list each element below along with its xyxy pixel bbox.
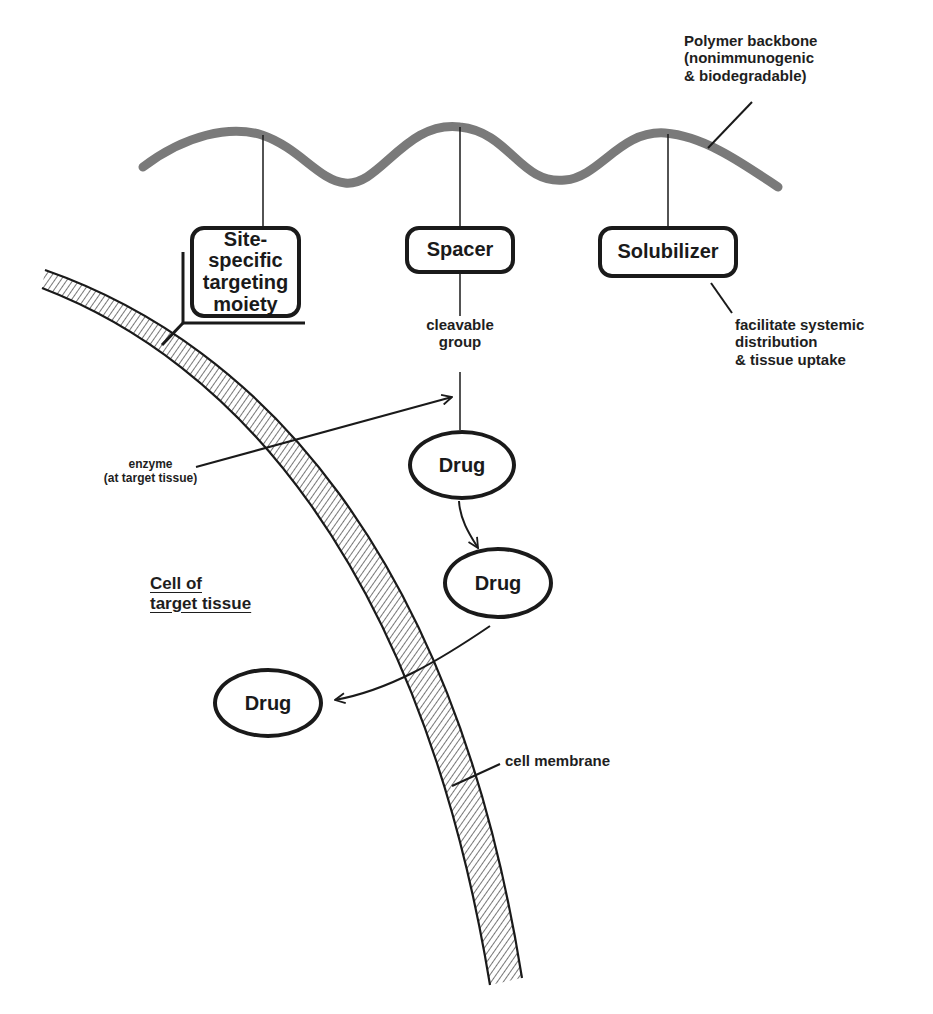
drug-released: Drug <box>443 547 553 619</box>
solubilizer-leader <box>711 283 732 313</box>
cell-label: Cell of target tissue <box>150 574 251 613</box>
enzyme-label: enzyme (at target tissue) <box>88 458 213 486</box>
membrane-label: cell membrane <box>505 752 610 769</box>
spacer-box: Spacer <box>405 226 515 274</box>
solubilizer-box: Solubilizer <box>598 226 738 278</box>
cleavable-group-label: cleavable group <box>420 316 500 351</box>
backbone-leader <box>708 102 752 148</box>
diagram-canvas <box>0 0 933 1014</box>
solubilizer-note: facilitate systemic distribution & tissu… <box>735 316 864 368</box>
backbone-label: Polymer backbone (nonimmunogenic & biode… <box>684 32 817 84</box>
drug-attached: Drug <box>408 430 516 500</box>
drug-internalized: Drug <box>213 668 323 738</box>
cell-membrane <box>42 270 522 985</box>
targeting-moiety-box: Site-specific targeting moiety <box>190 226 301 318</box>
release-arrow <box>459 501 478 548</box>
